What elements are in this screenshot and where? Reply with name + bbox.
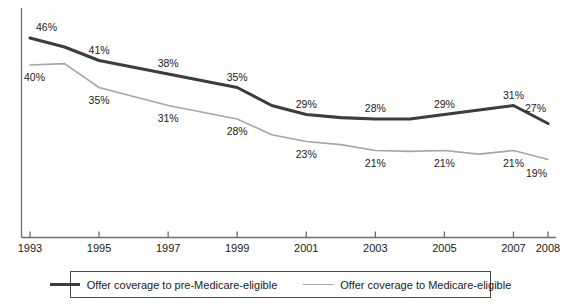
data-label: 29%	[296, 98, 317, 110]
chart-plot-area: 46%41%38%35%29%28%29%31%27%40%35%31%28%2…	[0, 0, 561, 265]
data-label: 21%	[434, 157, 455, 169]
x-tick-label: 2005	[432, 242, 456, 254]
x-tick-label: 1999	[225, 242, 249, 254]
legend-label-pre-medicare: Offer coverage to pre-Medicare-eligible	[87, 279, 278, 291]
x-tick-label: 2008	[536, 242, 560, 254]
data-point-labels: 46%41%38%35%29%28%29%31%27%40%35%31%28%2…	[24, 21, 547, 179]
data-label: 23%	[296, 148, 317, 160]
data-label: 41%	[89, 44, 110, 56]
data-label: 21%	[503, 157, 524, 169]
x-tick-label: 2003	[363, 242, 387, 254]
legend-swatch-light-line-icon	[303, 284, 333, 285]
line-chart: 46%41%38%35%29%28%29%31%27%40%35%31%28%2…	[0, 0, 561, 306]
x-tick-label: 2001	[294, 242, 318, 254]
chart-legend: Offer coverage to pre-Medicare-eligible …	[70, 271, 491, 298]
data-label: 35%	[89, 94, 110, 106]
data-label: 29%	[434, 98, 455, 110]
x-axis-tick-labels: 199319951997199920012003200520072008	[18, 242, 560, 254]
data-label: 31%	[503, 89, 524, 101]
data-label: 40%	[24, 71, 45, 83]
data-label: 21%	[365, 157, 386, 169]
x-tick-label: 1997	[156, 242, 180, 254]
x-tick-label: 2007	[501, 242, 525, 254]
data-label: 35%	[227, 71, 248, 83]
legend-swatch-dark-line-icon	[50, 283, 80, 286]
x-tick-label: 1993	[18, 242, 42, 254]
legend-label-medicare: Offer coverage to Medicare-eligible	[340, 279, 511, 291]
data-label: 31%	[158, 112, 179, 124]
x-tick-label: 1995	[87, 242, 111, 254]
data-label: 27%	[525, 102, 546, 114]
legend-entry-pre-medicare: Offer coverage to pre-Medicare-eligible	[50, 279, 278, 291]
x-axis-ticks	[30, 232, 548, 238]
data-label: 38%	[158, 57, 179, 69]
legend-entry-medicare: Offer coverage to Medicare-eligible	[303, 279, 511, 291]
axes	[22, 8, 557, 238]
data-label: 19%	[526, 167, 547, 179]
data-label: 28%	[227, 125, 248, 137]
data-label: 46%	[36, 21, 57, 33]
data-label: 28%	[365, 102, 386, 114]
